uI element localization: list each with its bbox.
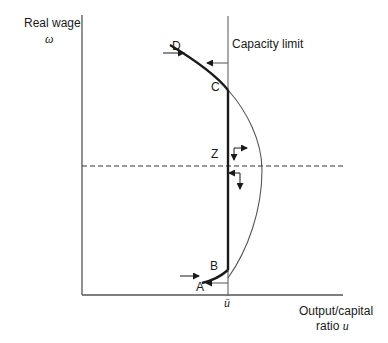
point-label-z: Z (211, 148, 218, 161)
x-axis-symbol: u (343, 319, 349, 333)
z-upper-arrows (234, 148, 247, 160)
capacity-u-bar: ū (224, 297, 230, 310)
z-lower-arrows (229, 173, 240, 189)
x-axis-label-ratio: ratio (316, 319, 339, 333)
point-label-d: D (172, 40, 181, 53)
point-label-a: A (196, 281, 204, 294)
diagram-canvas (0, 0, 388, 343)
x-axis-label-line1: Output/capital (299, 305, 373, 318)
y-axis-label: Real wage (24, 17, 81, 30)
x-axis-label-line2: ratio u (316, 320, 349, 333)
point-label-c: C (211, 81, 220, 94)
thin-curve (228, 90, 262, 278)
capacity-limit-label: Capacity limit (232, 38, 303, 51)
y-axis-symbol: ω (45, 33, 53, 46)
point-label-b: B (210, 260, 218, 273)
